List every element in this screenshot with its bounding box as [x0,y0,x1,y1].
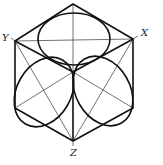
right-face-diagonal-2 [73,72,133,108]
left-face-diagonal-2 [15,72,73,108]
cube-drawing [0,0,163,165]
z-axis-label: Z [70,148,77,158]
isometric-cube-diagram: Y X Z [0,0,163,165]
x-axis-label: X [141,28,148,38]
x-axis-tick [133,36,138,39]
top-horizontal-line [15,39,133,41]
y-axis-label: Y [2,33,9,43]
